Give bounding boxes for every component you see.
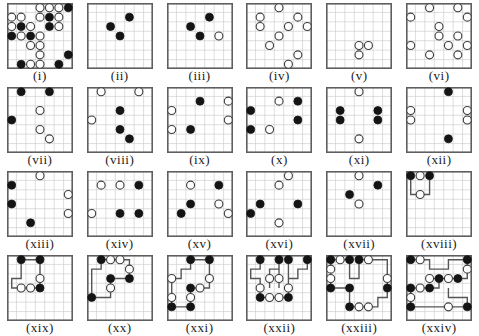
white-stone [355,172,363,180]
white-stone [36,125,44,133]
puzzle-board-vi [406,3,472,69]
white-stone [26,284,34,292]
black-stone [454,275,462,283]
board-border [88,256,152,320]
diagram-i: (i) [0,3,80,87]
white-stone [407,13,415,21]
white-stone [257,13,265,21]
black-stone [407,303,415,311]
diagram-label-x: (x) [271,153,288,167]
puzzle-board-xxi [167,255,233,321]
white-stone [36,41,44,49]
white-stone [454,51,462,59]
white-stone [407,293,415,301]
black-stone [17,60,25,68]
black-stone [304,256,312,264]
white-stone [266,275,274,283]
black-stone [45,23,53,31]
white-stone [275,32,283,40]
white-stone [416,256,424,264]
black-stone [285,293,293,301]
diagram-x: (x) [240,87,320,171]
diagram-label-xxii: (xxii) [263,321,295,335]
diagram-xxiv: (xxiv) [399,255,479,336]
diagram-xx: (xx) [80,255,160,336]
diagram-xxiii: (xxiii) [319,255,399,336]
black-stone [186,284,194,292]
black-stone [8,200,16,208]
black-stone [463,256,471,264]
white-stone [87,209,95,217]
white-stone [294,51,302,59]
diagram-label-xx: (xx) [108,321,132,335]
white-stone [55,13,63,21]
black-stone [186,200,194,208]
puzzle-board-xiv [87,171,153,237]
white-stone [26,41,34,49]
diagram-label-v: (v) [351,69,368,83]
black-stone [97,256,105,264]
diagram-xv: (xv) [160,171,240,255]
puzzle-board-xii [406,87,472,153]
black-stone [106,23,114,31]
black-stone [327,284,335,292]
white-stone [17,32,25,40]
white-stone [365,303,373,311]
white-stone [327,265,335,273]
white-stone [445,41,453,49]
diagram-label-vii: (vii) [27,153,52,167]
black-stone [116,209,124,217]
white-stone [64,209,72,217]
black-stone [346,191,354,199]
black-stone [186,256,194,264]
white-stone [435,32,443,40]
puzzle-board-ii [87,3,153,69]
black-stone [17,256,25,264]
black-stone [257,200,265,208]
board-border [407,88,471,152]
black-stone [135,181,143,189]
white-stone [384,275,392,283]
white-stone [135,88,143,96]
white-stone [224,97,232,105]
black-stone [116,32,124,40]
white-stone [45,135,53,143]
diagram-label-iii: (iii) [189,69,211,83]
white-stone [285,284,293,292]
white-stone [294,13,302,21]
white-stone [8,23,16,31]
white-stone [407,116,415,124]
white-stone [45,4,53,12]
black-stone [106,275,114,283]
white-stone [17,284,25,292]
puzzle-board-viii [87,87,153,153]
diagram-xi: (xi) [319,87,399,171]
white-stone [355,41,363,49]
puzzle-figure-grid: (i)(ii)(iii)(iv)(v)(vi)(vii)(viii)(ix)(x… [0,0,479,336]
black-stone [445,88,453,96]
white-stone [26,23,34,31]
white-stone [445,275,453,283]
puzzle-board-xvii [326,171,392,237]
white-stone [416,191,424,199]
black-stone [186,23,194,31]
white-stone [186,293,194,301]
white-stone [275,293,283,301]
white-stone [36,107,44,115]
board-border [88,88,152,152]
black-stone [64,51,72,59]
white-stone [463,107,471,115]
black-stone [407,284,415,292]
diagram-label-xviii: (xviii) [421,237,457,251]
puzzle-board-xx [87,255,153,321]
white-stone [214,200,222,208]
puzzle-board-x [246,87,312,153]
black-stone [294,116,302,124]
black-stone [116,107,124,115]
white-stone [125,265,133,273]
diagram-xix: (xix) [0,255,80,336]
diagram-label-xvii: (xvii) [343,237,375,251]
white-stone [266,125,274,133]
white-stone [224,209,232,217]
white-stone [454,32,462,40]
